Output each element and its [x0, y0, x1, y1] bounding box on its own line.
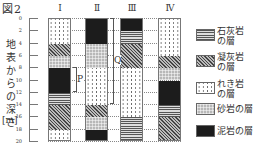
- layer-gravel: [121, 68, 142, 117]
- y-tick: [29, 18, 38, 19]
- y-tick: [29, 55, 38, 56]
- layer-tuff: [159, 56, 180, 68]
- bracket-label-q: Q: [114, 55, 121, 65]
- layer-sandstone: [159, 68, 180, 80]
- layer-sandstone: [86, 117, 107, 129]
- layer-mudstone: [121, 19, 142, 31]
- legend-label: れき岩: [217, 79, 244, 89]
- layer-mudstone: [86, 130, 107, 141]
- y-tick-label: 14: [8, 101, 22, 107]
- figure-title: 図2: [2, 0, 22, 16]
- bracket-label-p: P: [77, 74, 83, 84]
- column-label: Ⅱ: [85, 3, 109, 13]
- y-tick: [29, 67, 38, 68]
- strata-column: [120, 18, 143, 141]
- y-tick: [29, 43, 38, 44]
- y-tick-label: 4: [8, 40, 22, 46]
- y-tick-label: 0: [8, 15, 22, 21]
- y-tick: [29, 129, 38, 130]
- y-tick-label: 12: [8, 89, 22, 95]
- layer-limestone: [121, 117, 142, 141]
- layer-limestone: [49, 93, 70, 105]
- y-tick: [29, 92, 38, 93]
- layer-mudstone: [49, 68, 70, 93]
- layer-limestone: [159, 105, 180, 117]
- layer-tuff: [49, 105, 70, 130]
- legend-swatch-limestone: [196, 29, 215, 41]
- layer-tuff: [86, 105, 107, 117]
- column-label: Ⅲ: [120, 3, 144, 13]
- y-tick: [29, 104, 38, 105]
- y-tick-label: 2: [8, 27, 22, 33]
- legend-label: の層: [217, 89, 235, 99]
- legend-label: の層: [217, 62, 235, 72]
- layer-sandstone: [86, 44, 107, 69]
- legend-label: 砂岩の層: [217, 104, 253, 114]
- layer-gravel: [159, 19, 180, 56]
- y-tick-label: 20: [8, 138, 22, 144]
- layer-tuff: [159, 117, 180, 141]
- legend-swatch-sandstone: [196, 103, 215, 115]
- layer-mudstone: [159, 81, 180, 106]
- layer-sandstone: [49, 56, 70, 68]
- y-tick-label: 10: [8, 77, 22, 83]
- layer-tuff: [121, 44, 142, 69]
- strata-column: [48, 18, 71, 141]
- y-tick-label: 8: [8, 64, 22, 70]
- layer-limestone: [121, 31, 142, 43]
- layer-gravel: [49, 130, 70, 141]
- legend-label: 泥岩の層: [217, 126, 253, 136]
- y-tick: [29, 80, 38, 81]
- y-tick: [29, 116, 38, 117]
- y-tick-label: 6: [8, 52, 22, 58]
- layer-gravel: [49, 19, 70, 44]
- legend-swatch-gravel: [196, 82, 215, 94]
- legend-label: 凝灰岩: [217, 52, 244, 62]
- strata-column: [85, 18, 108, 141]
- layer-tuff: [49, 44, 70, 56]
- layer-mudstone: [86, 19, 107, 44]
- column-label: Ⅳ: [158, 3, 182, 13]
- y-tick: [29, 30, 38, 31]
- y-tick: [29, 141, 38, 142]
- legend-swatch-tuff: [196, 55, 215, 67]
- legend-label: の層: [217, 36, 235, 46]
- strata-column: [158, 18, 181, 141]
- y-tick-label: 16: [8, 113, 22, 119]
- legend-swatch-mudstone: [196, 125, 215, 137]
- layer-gravel: [86, 68, 107, 105]
- y-tick-label: 18: [8, 126, 22, 132]
- legend-label: 石灰岩: [217, 26, 244, 36]
- guide-line: [48, 141, 181, 142]
- column-label: Ⅰ: [48, 3, 72, 13]
